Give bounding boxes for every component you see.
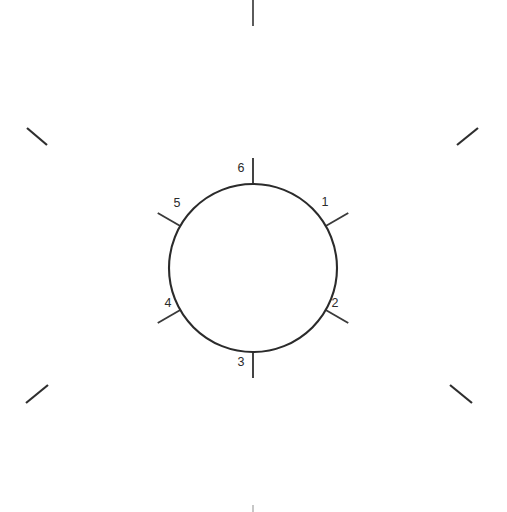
- figure-canvas: 123456: [0, 0, 507, 512]
- tick-label-6: 6: [238, 161, 245, 175]
- radial-tick-4: [158, 310, 181, 323]
- tick-label-1: 1: [322, 195, 329, 209]
- reference-circle-diagram: 123456: [0, 0, 507, 512]
- radial-tick-group: [158, 158, 349, 378]
- reference-circle: [169, 184, 337, 352]
- tick-label-3: 3: [238, 355, 245, 369]
- corner-mark-bottom-left: [26, 385, 48, 403]
- tick-label-5: 5: [174, 196, 181, 210]
- radial-tick-1: [326, 213, 349, 226]
- corner-mark-group: [26, 128, 478, 403]
- tick-label-4: 4: [165, 296, 172, 310]
- tick-label-group: 123456: [165, 161, 339, 369]
- corner-mark-top-left: [27, 128, 47, 145]
- corner-mark-top-right: [457, 128, 478, 145]
- radial-tick-5: [158, 213, 181, 226]
- corner-mark-bottom-right: [450, 385, 472, 403]
- radial-tick-2: [326, 310, 349, 323]
- tick-label-2: 2: [332, 296, 339, 310]
